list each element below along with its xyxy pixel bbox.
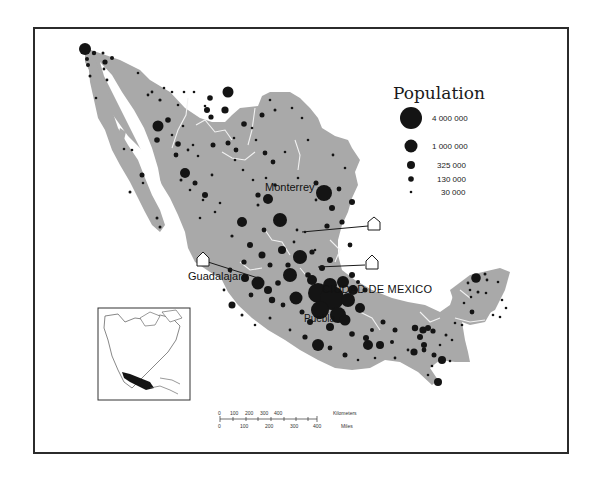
legend-label-325k: 325 000	[437, 161, 466, 170]
legend-title: Population	[393, 83, 485, 103]
scale-km-400: 400	[274, 410, 282, 416]
scale-km-0: 0	[218, 410, 221, 416]
inset-map	[98, 308, 190, 400]
scale-mi-0: 0	[218, 423, 221, 429]
legend-label-30k: 30 000	[441, 188, 465, 197]
scale-mi-300: 300	[290, 423, 298, 429]
legend-label-4m: 4 000 000	[432, 114, 468, 123]
legend-label-130k: 130 000	[437, 175, 466, 184]
scale-mi-label: Miles	[341, 423, 353, 429]
scale-mi-200: 200	[265, 423, 273, 429]
city-label-mexico-city: CIUDAD DE MEXICO	[322, 283, 432, 295]
mexico-map	[0, 0, 600, 479]
scale-bar	[220, 416, 317, 422]
scale-km-label: Kilometers	[333, 410, 357, 416]
scale-km-200: 200	[245, 410, 253, 416]
scale-km-300: 300	[260, 410, 268, 416]
city-label-monterrey: Monterrey	[265, 181, 315, 193]
city-label-puebla: Puebla	[304, 313, 335, 324]
city-label-guadalajara: Guadalajara	[188, 270, 248, 282]
house-marker-icon	[368, 217, 380, 230]
scale-mi-100: 100	[240, 423, 248, 429]
legend-label-1m: 1 000 000	[432, 142, 468, 151]
scale-km-100: 100	[230, 410, 238, 416]
house-marker-icon	[366, 255, 378, 269]
legend-symbols	[400, 107, 422, 193]
scale-mi-400: 400	[313, 423, 321, 429]
